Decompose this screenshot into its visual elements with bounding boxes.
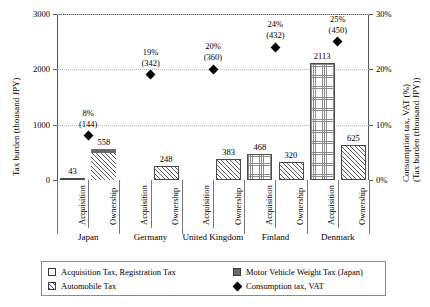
- category-separator: [119, 180, 120, 228]
- country-tick: [182, 228, 183, 234]
- bar-value-label: 558: [88, 138, 119, 147]
- category-separator: [213, 180, 214, 228]
- category-separator: [369, 180, 370, 228]
- legend-item-weight-tax: Motor Vehicle Weight Tax (Japan): [233, 268, 363, 277]
- bar-value-label: 468: [244, 143, 275, 152]
- y-tick-label-left: 1000: [33, 121, 50, 130]
- bar-japan-acquisition: [60, 178, 85, 180]
- bar-value-label: 625: [338, 134, 369, 143]
- chart-figure: Tax burden (thousand JPY) Consumption ta…: [0, 0, 430, 307]
- legend-item-automobile-tax: Automobile Tax: [48, 282, 233, 291]
- bar-value-label: 248: [151, 155, 182, 164]
- vat-percent-label: 19%: [119, 47, 181, 57]
- legend-row: Automobile Tax Consumption tax, VAT: [48, 279, 379, 293]
- bar-segment-automobile-tax: [91, 153, 116, 180]
- category-label-ownership: Ownership: [170, 188, 180, 225]
- country-label-finland: Finland: [244, 232, 306, 242]
- category-label-acquisition: Acquisition: [201, 185, 211, 225]
- category-label-acquisition: Acquisition: [264, 185, 274, 225]
- category-separator: [182, 180, 183, 228]
- bar-segment-weight-tax: [91, 149, 116, 153]
- y-axis-right-line: [368, 14, 369, 180]
- bar-denmark-ownership: [341, 145, 366, 180]
- y-tick-label-left: 2000: [33, 65, 50, 74]
- legend-item-acquisition-tax: Acquisition Tax, Registration Tax: [48, 268, 233, 277]
- legend-diamond-icon: [233, 281, 243, 291]
- legend-label: Acquisition Tax, Registration Tax: [61, 268, 176, 277]
- legend-item-consumption-tax: Consumption tax, VAT: [233, 282, 324, 291]
- bar-value-label: 320: [275, 151, 306, 160]
- category-label-acquisition: Acquisition: [77, 185, 87, 225]
- bar-finland-acquisition: [247, 154, 272, 180]
- country-tick: [119, 228, 120, 234]
- category-separator: [338, 180, 339, 228]
- country-label-germany: Germany: [119, 232, 181, 242]
- y-tick-label-right: 0%: [376, 176, 387, 185]
- vat-amount-label: (360): [182, 52, 244, 62]
- y-tick-left: [53, 69, 57, 70]
- vat-amount-label: (342): [119, 58, 181, 68]
- y-axis-title-right-primary: Consumption tax, VAT (%): [401, 84, 411, 182]
- category-label-ownership: Ownership: [233, 188, 243, 225]
- bar-value-label: 2113: [307, 52, 338, 61]
- legend-label: Consumption tax, VAT: [246, 282, 324, 291]
- vat-diamond-germany: [146, 70, 156, 80]
- vat-percent-label: 25%: [307, 14, 369, 24]
- y-tick-left: [53, 14, 57, 15]
- bar-value-label: 383: [213, 148, 244, 157]
- country-label-united-kingdom: United Kingdom: [182, 232, 244, 242]
- legend-label: Automobile Tax: [61, 282, 116, 291]
- bar-germany-ownership: [154, 166, 179, 180]
- category-label-acquisition: Acquisition: [326, 185, 336, 225]
- country-tick: [307, 228, 308, 234]
- bar-denmark-acquisition: [310, 63, 335, 180]
- y-tick-right: [369, 69, 373, 70]
- category-label-ownership: Ownership: [108, 188, 118, 225]
- y-axis-title-right-secondary: (Tax burden (thousand JPY)): [411, 77, 421, 182]
- country-tick: [244, 228, 245, 234]
- country-tick: [369, 228, 370, 234]
- legend-row: Acquisition Tax, Registration Tax Motor …: [48, 265, 379, 279]
- category-separator: [57, 180, 58, 228]
- y-axis-left-line: [57, 14, 58, 180]
- legend-label: Motor Vehicle Weight Tax (Japan): [246, 268, 363, 277]
- category-separator: [88, 180, 89, 228]
- country-tick: [57, 228, 58, 234]
- legend-swatch-hatch-icon: [48, 282, 56, 290]
- vat-amount-label: (450): [307, 25, 369, 35]
- y-tick-right: [369, 125, 373, 126]
- category-label-acquisition: Acquisition: [139, 185, 149, 225]
- chart-legend: Acquisition Tax, Registration Tax Motor …: [41, 261, 386, 296]
- bar-japan-ownership: [91, 149, 116, 180]
- country-label-denmark: Denmark: [307, 232, 369, 242]
- vat-percent-label: 20%: [182, 41, 244, 51]
- bar-united-kingdom-ownership: [216, 159, 241, 180]
- bar-value-label: 43: [57, 167, 88, 176]
- vat-diamond-denmark: [333, 37, 343, 47]
- plot-area: 435582483834683202113625 8%(144)19%(342)…: [57, 14, 369, 180]
- category-separator: [244, 180, 245, 228]
- vat-diamond-united-kingdom: [208, 64, 218, 74]
- vat-amount-label: (144): [57, 119, 119, 129]
- vat-diamond-finland: [270, 42, 280, 52]
- vat-percent-label: 24%: [244, 19, 306, 29]
- y-tick-label-right: 10%: [376, 121, 392, 130]
- category-label-ownership: Ownership: [357, 188, 367, 225]
- y-tick-label-left: 3000: [33, 10, 50, 19]
- y-tick-label-right: 30%: [376, 10, 392, 19]
- y-tick-label-right: 20%: [376, 65, 392, 74]
- category-label-ownership: Ownership: [295, 188, 305, 225]
- category-separator: [151, 180, 152, 228]
- category-separator: [275, 180, 276, 228]
- bar-finland-ownership: [279, 162, 304, 180]
- country-label-japan: Japan: [57, 232, 119, 242]
- y-tick-label-left: 0: [46, 176, 50, 185]
- y-axis-title-left: Tax burden (thousand JPY): [11, 77, 21, 176]
- vat-amount-label: (432): [244, 30, 306, 40]
- legend-swatch-plain-icon: [48, 268, 56, 276]
- legend-swatch-dark-icon: [233, 268, 241, 276]
- category-separator: [307, 180, 308, 228]
- y-tick-right: [369, 14, 373, 15]
- vat-percent-label: 8%: [57, 108, 119, 118]
